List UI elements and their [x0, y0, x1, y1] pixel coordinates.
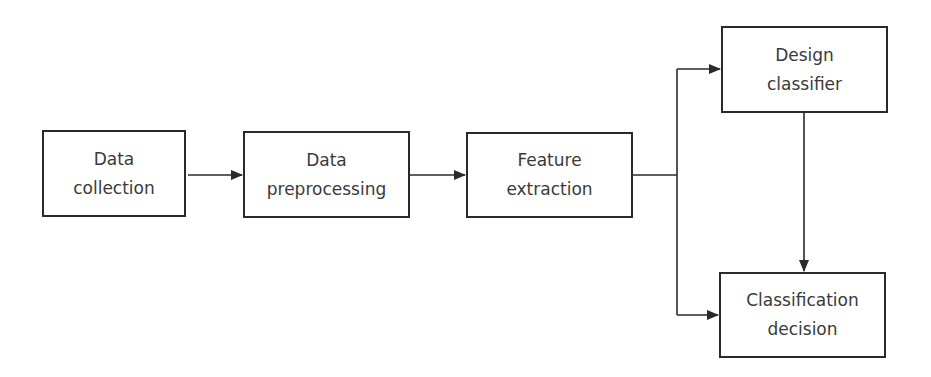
- node-design-classifier: Design classifier: [721, 26, 888, 113]
- node-data-collection: Data collection: [42, 130, 186, 217]
- node-label: Classification decision: [746, 286, 858, 344]
- node-label: Data collection: [73, 145, 155, 203]
- node-data-preprocessing: Data preprocessing: [243, 131, 410, 218]
- node-label: Feature extraction: [506, 146, 592, 204]
- node-classification-decision: Classification decision: [719, 272, 886, 358]
- node-label: Data preprocessing: [267, 146, 386, 204]
- flowchart-canvas: Data collection Data preprocessing Featu…: [0, 0, 931, 377]
- node-label: Design classifier: [767, 41, 842, 99]
- node-feature-extraction: Feature extraction: [466, 132, 633, 218]
